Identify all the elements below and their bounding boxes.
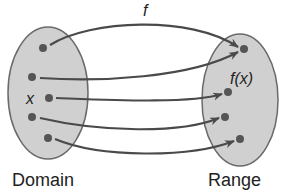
domain-dot: [39, 44, 47, 52]
arrow-5: [55, 139, 234, 154]
range-label: Range: [208, 170, 261, 190]
domain-dot: [28, 73, 36, 81]
arrow-1: [50, 25, 238, 47]
range-dot: [236, 135, 244, 143]
range-dot: [240, 45, 248, 53]
range-dot: [221, 113, 229, 121]
range-dot: [224, 88, 232, 96]
image-label: f(x): [230, 70, 253, 87]
domain-dot: [45, 94, 53, 102]
function-label: f: [143, 2, 149, 19]
domain-dot: [28, 113, 36, 121]
domain-dot: [44, 134, 52, 142]
function-mapping-diagram: f x f(x) Domain Range: [0, 0, 282, 193]
element-label: x: [25, 90, 35, 107]
domain-label: Domain: [12, 170, 74, 190]
